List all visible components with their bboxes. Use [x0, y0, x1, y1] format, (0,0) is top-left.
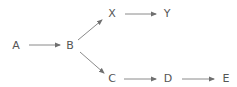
arrow-b-to-c	[80, 52, 104, 73]
node-c: C	[108, 72, 116, 85]
edges-group	[29, 14, 214, 79]
flow-diagram: ABXYCDE	[0, 0, 237, 87]
node-a: A	[12, 39, 20, 52]
node-y: Y	[163, 7, 171, 20]
node-d: D	[164, 72, 172, 85]
node-b: B	[66, 39, 74, 52]
nodes-group: ABXYCDE	[12, 7, 229, 85]
node-e: E	[223, 72, 230, 85]
node-x: X	[108, 7, 116, 20]
arrow-b-to-x	[78, 20, 102, 40]
